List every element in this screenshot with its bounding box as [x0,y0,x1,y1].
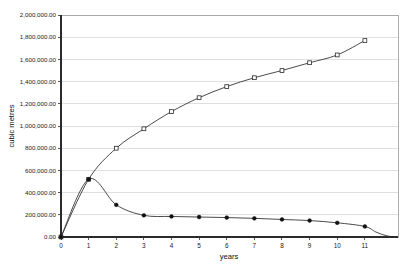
data-point-cumulative-volume-5 [197,96,201,100]
data-point-cumulative-volume-4 [170,110,174,114]
gridlines-group [61,15,398,215]
data-point-annual-volume-8 [280,218,284,222]
data-point-annual-volume-7 [252,216,256,220]
x-axis-title: years [220,252,239,261]
data-point-annual-volume-6 [225,216,229,220]
y-axis-group: 0.00200,000.00400,000.00600,000.00800,00… [20,11,61,240]
x-tick-label: 4 [170,242,174,249]
data-point-cumulative-volume-7 [252,76,256,80]
y-tick-label: 0.00 [44,233,57,240]
y-tick-label: 1,800,000.00 [20,33,57,40]
y-tick-label: 1,000,000.00 [20,122,57,129]
data-point-cumulative-volume-11 [363,39,367,43]
y-tick-label: 600,000.00 [25,167,57,174]
data-point-annual-volume-4 [170,215,174,219]
x-tick-label: 3 [142,242,146,249]
data-point-annual-volume-1 [87,177,91,181]
y-tick-label: 2,000,000.00 [20,11,57,18]
data-point-cumulative-volume-8 [280,69,284,73]
data-point-cumulative-volume-3 [142,127,146,131]
x-tick-label: 6 [225,242,229,249]
x-tick-label: 9 [308,242,312,249]
series-line-cumulative-volume [61,41,365,237]
data-point-annual-volume-2 [114,203,118,207]
x-tick-label: 5 [197,242,201,249]
x-axis-group: 01234567891011 [59,237,398,249]
x-tick-label: 2 [114,242,118,249]
x-tick-label: 0 [59,242,63,249]
data-point-annual-volume-5 [197,215,201,219]
y-axis-title: cubic metres [7,104,16,147]
data-point-annual-volume-10 [335,221,339,225]
x-tick-label: 11 [362,242,369,249]
y-tick-label: 1,600,000.00 [20,56,57,63]
x-tick-label: 10 [334,242,342,249]
y-tick-label: 200,000.00 [25,211,57,218]
y-tick-label: 400,000.00 [25,189,57,196]
x-tick-labels: 01234567891011 [59,242,368,249]
y-tick-labels: 0.00200,000.00400,000.00600,000.00800,00… [20,11,57,240]
data-point-annual-volume-0 [59,235,63,239]
data-point-cumulative-volume-6 [225,85,229,89]
line-chart: 0.00200,000.00400,000.00600,000.00800,00… [0,0,420,265]
y-tick-label: 1,400,000.00 [20,78,57,85]
series-line-annual-volume [61,179,398,237]
data-point-cumulative-volume-10 [335,53,339,57]
y-tick-label: 800,000.00 [25,144,57,151]
y-tick-label: 1,200,000.00 [20,100,57,107]
data-point-annual-volume-9 [308,219,312,223]
x-tick-label: 1 [87,242,91,249]
data-point-annual-volume-11 [363,225,367,229]
data-point-cumulative-volume-2 [114,146,118,150]
x-tick-label: 7 [253,242,257,249]
chart-container: 0.00200,000.00400,000.00600,000.00800,00… [0,0,420,265]
data-point-cumulative-volume-9 [308,61,312,65]
data-point-annual-volume-3 [142,213,146,217]
x-tick-label: 8 [280,242,284,249]
series-group [59,39,398,239]
